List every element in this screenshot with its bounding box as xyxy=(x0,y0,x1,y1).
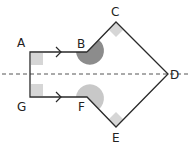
diagram-canvas: A B C D E F G xyxy=(0,0,191,149)
vertex-label-d: D xyxy=(170,68,179,82)
polygon-diagram: A B C D E F G xyxy=(0,0,191,149)
polygon-outline xyxy=(30,22,168,127)
vertex-label-b: B xyxy=(77,37,85,51)
right-angle-marker-a xyxy=(31,53,43,65)
vertex-label-g: G xyxy=(17,100,26,114)
right-angle-marker-c xyxy=(109,23,123,37)
vertex-label-c: C xyxy=(111,5,119,19)
right-angle-marker-e xyxy=(109,112,123,126)
vertex-label-e: E xyxy=(112,131,120,145)
right-angle-marker-g xyxy=(31,84,43,96)
vertex-label-a: A xyxy=(17,36,26,50)
vertex-label-f: F xyxy=(78,100,85,114)
